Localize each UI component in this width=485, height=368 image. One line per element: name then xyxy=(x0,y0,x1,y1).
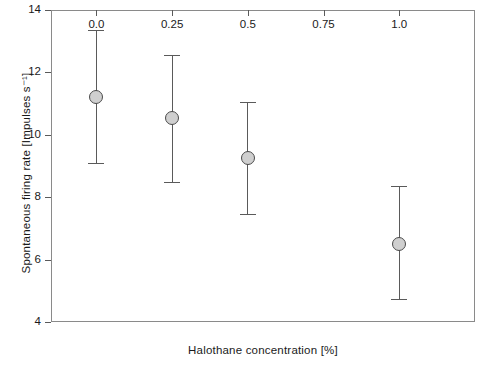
y-axis-tick-label: 8 xyxy=(35,191,41,203)
y-axis-tick-mark xyxy=(45,135,51,136)
x-axis-tick-label: 1.0 xyxy=(391,19,407,31)
plot-area: 4681012140.00.250.50.751.0 xyxy=(51,10,475,322)
x-axis-tick-mark xyxy=(96,10,97,16)
x-axis-tick-mark xyxy=(324,10,325,16)
error-bar-cap-lower xyxy=(391,299,407,300)
data-point-marker xyxy=(241,151,255,165)
error-bar-cap-upper xyxy=(240,102,256,103)
x-axis-tick-mark xyxy=(399,10,400,16)
x-axis-tick-label: 0.25 xyxy=(161,19,183,31)
y-axis-tick-mark xyxy=(45,72,51,73)
x-axis-tick-label: 0.75 xyxy=(312,19,334,31)
x-axis-title: Halothane concentration [%] xyxy=(51,344,475,356)
x-axis-tick-label: 0.0 xyxy=(88,19,104,31)
data-point-marker xyxy=(89,90,103,104)
error-bar-cap-upper xyxy=(164,55,180,56)
y-axis-tick-label: 4 xyxy=(35,316,41,328)
error-bar-cap-lower xyxy=(88,163,104,164)
y-axis-tick-mark xyxy=(45,322,51,323)
y-axis-tick-mark xyxy=(45,260,51,261)
error-bar-cap-lower xyxy=(240,214,256,215)
y-axis-tick-mark xyxy=(45,197,51,198)
error-bar-cap-lower xyxy=(164,182,180,183)
x-axis-tick-mark xyxy=(248,10,249,16)
y-axis-tick-mark xyxy=(45,10,51,11)
data-point-marker xyxy=(165,111,179,125)
error-bar-cap-upper xyxy=(88,30,104,31)
x-axis-tick-label: 0.5 xyxy=(240,19,256,31)
chart-figure: 4681012140.00.250.50.751.0 Halothane con… xyxy=(0,0,485,368)
y-axis-tick-label: 14 xyxy=(28,4,41,16)
x-axis-tick-mark xyxy=(172,10,173,16)
y-axis-title: Spontaneous firing rate [Impulses s⁻¹] xyxy=(19,58,33,288)
y-axis-tick-label: 6 xyxy=(35,254,41,266)
error-bar-cap-upper xyxy=(391,186,407,187)
data-point-marker xyxy=(392,237,406,251)
